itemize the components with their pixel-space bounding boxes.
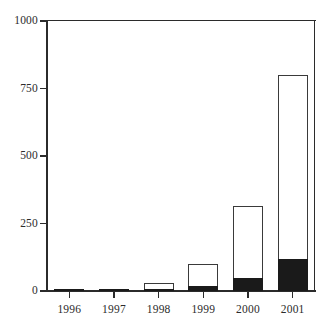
bar-group [188,21,218,291]
x-axis-tick-label: 2000 [236,303,260,315]
bar-group [99,21,129,291]
bar-filled-segment-1997 [99,289,129,291]
y-axis-tick [40,88,47,90]
x-axis-tick [292,291,294,298]
y-axis-tick-label: 250 [20,218,38,230]
x-axis-tick [203,291,205,298]
x-axis-tick-label: 2001 [281,303,305,315]
x-axis-tick-label: 1998 [147,303,171,315]
bar-group [54,21,84,291]
x-axis-tick-label: 1999 [191,303,215,315]
y-axis-tick [40,223,47,225]
y-axis-tick [40,290,47,292]
bar-chart: 10007505002500 199619971998199920002001 [0,0,329,334]
plot-area [47,21,315,291]
x-axis-tick-label: 1996 [57,303,81,315]
bar-filled-segment-2000 [233,278,263,291]
bar-filled-segment-1999 [188,286,218,291]
bar-filled-segment-2001 [278,259,308,291]
y-axis-tick [40,155,47,157]
bar-group [233,21,263,291]
y-axis-tick-label: 0 [32,285,38,297]
bar-group [144,21,174,291]
bar-filled-segment-1996 [54,289,84,291]
bar-group [278,21,308,291]
y-axis-tick-label: 1000 [14,15,38,27]
bar-filled-segment-1998 [144,289,174,291]
x-axis-tick [247,291,249,298]
y-axis-tick-label: 500 [20,150,38,162]
y-axis-tick [40,20,47,22]
x-axis-tick-label: 1997 [102,303,126,315]
x-axis-tick [113,291,115,298]
x-axis-tick [158,291,160,298]
x-axis-tick [69,291,71,298]
y-axis-tick-label: 750 [20,83,38,95]
